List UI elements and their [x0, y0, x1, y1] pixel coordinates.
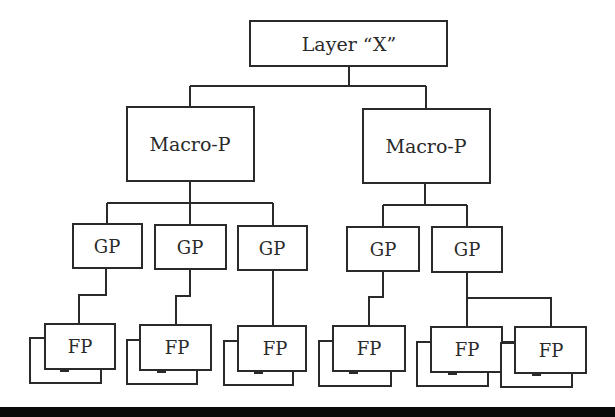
edge-macro1-to-gps — [107, 181, 273, 226]
gp-2-label: GP — [177, 237, 204, 258]
fp-3-label: FP — [263, 338, 288, 359]
fp-4-label: FP — [357, 338, 382, 359]
edge-macro2-to-gps — [383, 183, 467, 227]
macro-1-label: Macro-P — [149, 133, 230, 155]
edge-gp5-to-fp5-fp6 — [467, 272, 551, 327]
fp-3-dots — [254, 372, 263, 374]
node-fp-6: FP — [501, 327, 586, 387]
hierarchy-diagram: Layer “X” Macro-P Macro-P GP GP GP GP GP… — [0, 0, 615, 417]
bottom-border-bar — [0, 407, 615, 417]
node-gp-4: GP — [347, 227, 419, 271]
edge-gp4-to-fp4 — [369, 271, 383, 326]
fp-1-dots — [60, 370, 69, 372]
root-label: Layer “X” — [302, 33, 397, 55]
gp-4-label: GP — [370, 239, 397, 260]
fp-2-dots — [157, 371, 166, 373]
fp-5-dots — [448, 373, 457, 375]
fp-1-label: FP — [68, 336, 93, 357]
edge-gp1-to-fp1 — [79, 268, 106, 324]
node-fp-3: FP — [224, 326, 306, 385]
node-fp-1: FP — [30, 324, 115, 383]
fp-6-label: FP — [539, 340, 564, 361]
node-fp-4: FP — [319, 326, 405, 386]
node-fp-5: FP — [417, 327, 502, 386]
node-fp-2: FP — [127, 325, 211, 384]
edge-root-to-macros — [190, 66, 426, 109]
connector-lines — [79, 66, 551, 327]
node-root: Layer “X” — [250, 21, 447, 66]
node-gp-5: GP — [432, 227, 502, 272]
macro-2-label: Macro-P — [385, 135, 466, 157]
edge-gp2-to-fp2 — [176, 269, 190, 325]
node-gp-3: GP — [238, 226, 307, 270]
fp-6-dots — [532, 374, 541, 376]
gp-3-label: GP — [259, 238, 286, 259]
gp-1-label: GP — [94, 236, 121, 257]
fp-2-label: FP — [165, 337, 190, 358]
node-gp-1: GP — [73, 224, 142, 268]
node-macro-2: Macro-P — [363, 109, 490, 183]
node-macro-1: Macro-P — [127, 107, 254, 181]
gp-5-label: GP — [454, 239, 481, 260]
fp-4-dots — [349, 372, 358, 374]
node-gp-2: GP — [155, 225, 226, 269]
fp-5-label: FP — [455, 339, 480, 360]
